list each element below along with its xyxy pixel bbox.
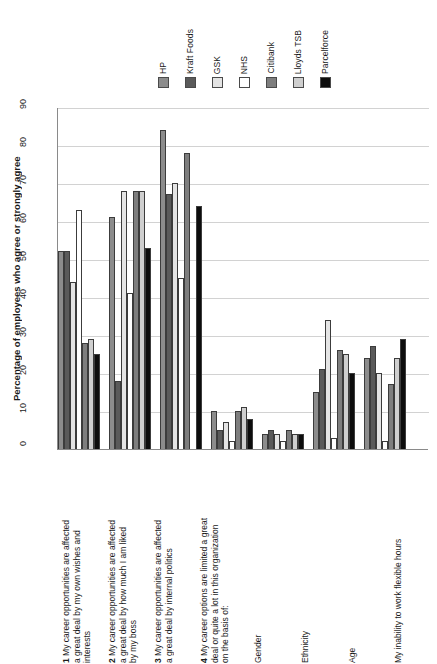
group-spacer xyxy=(253,448,262,449)
bar-group xyxy=(211,107,253,449)
y-axis-tick-label: 0 xyxy=(18,441,52,446)
y-axis-tick-label: 80 xyxy=(18,137,52,147)
x-axis-label: Ethnicity xyxy=(300,463,311,663)
x-axis-label-number: 3 xyxy=(153,656,163,663)
group-spacer xyxy=(355,448,364,449)
x-axis-label: Age xyxy=(347,463,358,663)
bar-group xyxy=(313,107,355,449)
legend-item-label: NHS xyxy=(240,56,249,74)
y-axis-tick-label: 40 xyxy=(18,289,52,299)
legend-item[interactable]: Kraft Foods xyxy=(177,4,204,88)
bar-group xyxy=(58,107,100,449)
y-axis-tick-label: 60 xyxy=(18,213,52,223)
legend-color-swatch xyxy=(185,77,196,88)
bar[interactable] xyxy=(376,373,382,449)
x-axis-label: My inability to work flexible hours xyxy=(393,463,404,663)
bar-group xyxy=(160,107,202,449)
x-axis-label-text: My career opportunities are affected a g… xyxy=(153,520,174,663)
x-axis-label: 2 My career opportunities are affected a… xyxy=(107,463,139,663)
group-spacer xyxy=(202,448,211,449)
legend-item-label: Kraft Foods xyxy=(186,29,195,74)
x-axis-label: 4 My career options are limited a great … xyxy=(199,463,231,663)
chart-root: HPKraft FoodsGSKNHSCitibankLloyds TSBPar… xyxy=(0,0,437,664)
x-axis-label: 1 My career opportunities are affected a… xyxy=(61,463,93,663)
x-axis-label-text: My career opportunities are affected a g… xyxy=(61,520,92,663)
x-axis-label-number: 1 xyxy=(61,656,71,663)
bar[interactable] xyxy=(94,354,100,449)
x-axis-label-text: My inability to work flexible hours xyxy=(393,539,403,663)
legend-color-swatch xyxy=(239,77,250,88)
bar[interactable] xyxy=(298,434,304,449)
y-axis-tick-label: 10 xyxy=(18,403,52,413)
x-axis-label-text: Age xyxy=(347,648,357,663)
x-axis-label-text: Ethnicity xyxy=(300,631,310,663)
bar[interactable] xyxy=(145,248,151,449)
legend-item[interactable]: Lloyds TSB xyxy=(285,4,312,88)
bar[interactable] xyxy=(196,206,202,449)
y-axis-tick-label: 30 xyxy=(18,327,52,337)
legend-item-label: Lloyds TSB xyxy=(294,30,303,74)
legend-item-label: GSK xyxy=(213,56,222,74)
legend-color-swatch xyxy=(158,77,169,88)
plot-area: 0102030405060708090 xyxy=(57,108,428,450)
group-spacer xyxy=(151,448,160,449)
legend-color-swatch xyxy=(293,77,304,88)
y-axis-tick-label: 20 xyxy=(18,365,52,375)
bar-series-container xyxy=(58,107,429,449)
legend-item[interactable]: GSK xyxy=(204,4,231,88)
legend-color-swatch xyxy=(212,77,223,88)
legend-item[interactable]: Parcelforce xyxy=(312,4,339,88)
bar[interactable] xyxy=(400,339,406,449)
chart-legend: HPKraft FoodsGSKNHSCitibankLloyds TSBPar… xyxy=(150,4,350,88)
group-spacer xyxy=(100,448,109,449)
legend-item[interactable]: HP xyxy=(150,4,177,88)
y-axis-tick-label: 70 xyxy=(18,175,52,185)
legend-color-swatch xyxy=(320,77,331,88)
legend-item-label: Parcelforce xyxy=(321,30,330,74)
x-axis-label-text: My career opportunities are affected a g… xyxy=(107,520,138,663)
x-axis-label: 3 My career opportunities are affected a… xyxy=(153,463,174,663)
bar-group xyxy=(262,107,304,449)
legend-item-label: Citibank xyxy=(267,42,276,74)
bar-group xyxy=(109,107,151,449)
x-axis-labels: 1 My career opportunities are affected a… xyxy=(57,455,437,663)
bar[interactable] xyxy=(247,419,253,449)
x-axis-label-text: Gender xyxy=(253,635,263,663)
legend-item[interactable]: Citibank xyxy=(258,4,285,88)
x-axis-label-number: 4 xyxy=(199,656,209,663)
y-axis-tick-label: 90 xyxy=(18,99,52,109)
bar[interactable] xyxy=(184,153,190,449)
bar-group xyxy=(364,107,406,449)
y-axis-title: Percentage of employees who agree or str… xyxy=(8,108,24,450)
bar[interactable] xyxy=(325,320,331,449)
legend-item[interactable]: NHS xyxy=(231,4,258,88)
x-axis-label-text: My career options are limited a great de… xyxy=(199,518,230,663)
legend-color-swatch xyxy=(266,77,277,88)
y-axis-tick-label: 50 xyxy=(18,251,52,261)
legend-item-label: HP xyxy=(159,62,168,74)
x-axis-label: Gender xyxy=(253,463,264,663)
x-axis-label-number: 2 xyxy=(107,656,117,663)
group-spacer xyxy=(304,448,313,449)
bar[interactable] xyxy=(349,373,355,449)
